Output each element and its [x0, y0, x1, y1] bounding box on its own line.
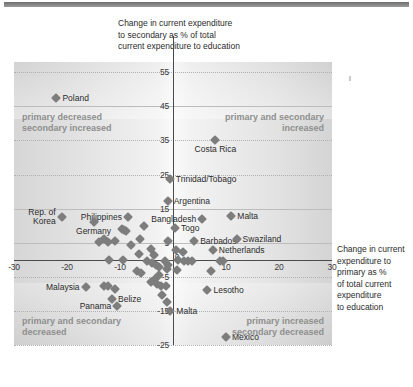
y-tick-label: 55	[149, 67, 169, 77]
scatter-plot-area: 55453525155-5-15-25 -30-20-101020300 Pol…	[14, 62, 332, 345]
x-tick-label: -30	[8, 262, 20, 272]
decorative-speck	[349, 76, 351, 81]
data-point-label: Argentina	[174, 197, 210, 206]
y-axis-line	[173, 36, 174, 345]
x-tick-label: 30	[327, 262, 336, 272]
data-point-label: Rep. of Korea	[28, 208, 55, 226]
quadrant-label-bottom-left: primary and secondary decreased	[22, 316, 121, 338]
gridline-y	[14, 345, 332, 346]
data-point-label: Belize	[118, 295, 141, 304]
data-point-label: Swaziland	[243, 235, 282, 244]
y-tick-label: 45	[149, 101, 169, 111]
data-point-label: Panama	[80, 302, 112, 311]
data-point-label: Costa Rica	[195, 145, 237, 154]
data-point-label: Malta	[237, 212, 258, 221]
data-point-label: Poland	[62, 93, 88, 102]
x-tick-label: 20	[274, 262, 283, 272]
quadrant-label-top-left: primary decreased secondary increased	[22, 112, 112, 134]
quadrant-label-top-right: primary and secondary increased	[225, 112, 324, 134]
data-point-label: Philippines	[81, 212, 122, 221]
x-tick-label: -20	[61, 262, 73, 272]
data-point-label: Malaysia	[46, 283, 80, 292]
y-tick-label: 35	[149, 135, 169, 145]
x-axis-title: Change in current expenditure to primary…	[337, 244, 405, 313]
data-point-label: Lesotho	[213, 285, 243, 294]
data-point-label: Togo	[181, 224, 199, 233]
y-tick-label: 15	[149, 204, 169, 214]
data-point-label: Malta	[176, 306, 197, 315]
data-point-label: Netherlands	[219, 245, 265, 254]
y-tick-label: -25	[149, 340, 169, 350]
data-point-label: Trinidad/Tobago	[176, 174, 237, 183]
quadrant-label-bottom-right: primary increased secondary decreased	[232, 316, 324, 338]
chart-stage: Change in current expenditure to seconda…	[0, 0, 413, 387]
y-axis-title: Change in current expenditure to seconda…	[118, 18, 240, 53]
